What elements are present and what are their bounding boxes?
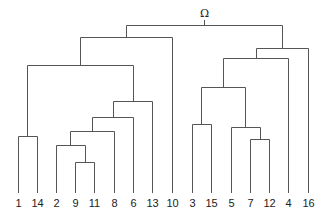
leaf-label: 5 (228, 197, 234, 209)
dendrogram: 11429118613103155712416 Ω (0, 0, 328, 215)
merge-link (202, 88, 246, 128)
merge-link (232, 128, 261, 194)
merge-link (76, 163, 95, 194)
leaf-label: 9 (72, 197, 78, 209)
leaf-label: 1 (15, 197, 21, 209)
merge-link (28, 66, 134, 137)
merge-link (19, 137, 38, 194)
leaf-label: 14 (31, 197, 43, 209)
merge-link (257, 49, 309, 194)
merge-link (127, 26, 283, 49)
leaf-label: 15 (205, 197, 217, 209)
merge-link (251, 140, 270, 194)
leaf-label: 16 (302, 197, 314, 209)
merge-link (224, 59, 289, 194)
leaf-label: 2 (53, 197, 59, 209)
leaf-label: 3 (189, 197, 195, 209)
leaf-label: 7 (247, 197, 253, 209)
leaf-label: 12 (263, 197, 275, 209)
leaf-label: 4 (285, 197, 291, 209)
leaf-label: 11 (89, 197, 100, 209)
leaf-label: 8 (111, 197, 117, 209)
merge-link (57, 146, 86, 194)
leaf-label: 6 (130, 197, 136, 209)
leaf-label: 13 (146, 197, 158, 209)
dendrogram-links (19, 20, 309, 193)
merge-link (93, 118, 134, 194)
merge-link (193, 125, 212, 194)
root-label: Ω (200, 7, 209, 20)
leaf-labels: 11429118613103155712416 (15, 197, 314, 209)
leaf-label: 10 (166, 197, 178, 209)
